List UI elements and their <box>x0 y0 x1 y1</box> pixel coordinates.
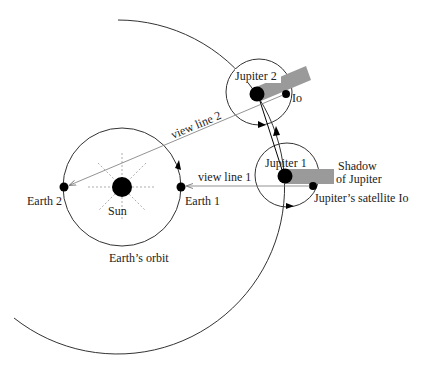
earth-2-label: Earth 2 <box>27 194 62 208</box>
sun <box>112 177 132 197</box>
jupiter-1-label: Jupiter 1 <box>265 156 307 170</box>
shadow-label-line-2: of Jupiter <box>336 172 382 186</box>
jupiter-1-planet <box>278 169 293 184</box>
diagram-canvas: view line 2 view line 1 Earth 2 Earth 1 … <box>0 0 424 370</box>
jupiter-2-planet <box>250 87 265 102</box>
jupiter-1-orbit-arrow <box>286 203 294 209</box>
io-2-label: Io <box>292 91 302 105</box>
jupiter-2-orbit-arrow <box>258 121 266 128</box>
earth-orbit-direction-arrow <box>175 160 181 170</box>
earth-1 <box>177 183 186 192</box>
view-line-2-label: view line 2 <box>169 108 224 142</box>
earth-1-label: Earth 1 <box>185 194 220 208</box>
jupiter-2-label: Jupiter 2 <box>235 69 277 83</box>
io-1 <box>309 182 317 190</box>
sun-label: Sun <box>108 204 127 218</box>
io-1-label: Jupiter’s satellite Io <box>314 191 408 205</box>
io-2 <box>282 90 290 98</box>
view-line-1-label: view line 1 <box>198 170 251 184</box>
shadow-label-line-1: Shadow <box>338 159 377 173</box>
earth-2 <box>60 183 69 192</box>
earth-orbit-label: Earth’s orbit <box>109 251 169 265</box>
